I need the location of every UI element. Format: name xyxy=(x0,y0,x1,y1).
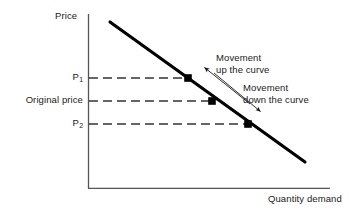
tick-label-p1-subscript: 1 xyxy=(79,76,83,83)
annotation-movement-down-line2: down the curve xyxy=(243,94,309,106)
annotation-movement-up-line2: up the curve xyxy=(216,64,269,76)
tick-label-original-price: Original price xyxy=(26,94,83,106)
data-point-p1 xyxy=(184,74,192,82)
annotation-movement-up: Movement up the curve xyxy=(216,52,269,75)
annotation-movement-up-line1: Movement xyxy=(216,52,269,64)
y-axis-label: Price xyxy=(55,10,77,22)
data-point-p2 xyxy=(244,120,252,128)
tick-label-p2: P2 xyxy=(73,117,83,129)
figure-canvas xyxy=(0,0,362,214)
tick-label-p2-subscript: 2 xyxy=(79,122,83,129)
data-point-original-price xyxy=(208,97,216,105)
tick-label-p1: P1 xyxy=(73,71,83,83)
annotation-movement-down-line1: Movement xyxy=(243,82,309,94)
x-axis-label: Quantity demand xyxy=(268,193,342,205)
annotation-movement-down: Movement down the curve xyxy=(243,82,309,105)
demand-curve-figure: Price Quantity demand P1 Original price … xyxy=(0,0,362,214)
